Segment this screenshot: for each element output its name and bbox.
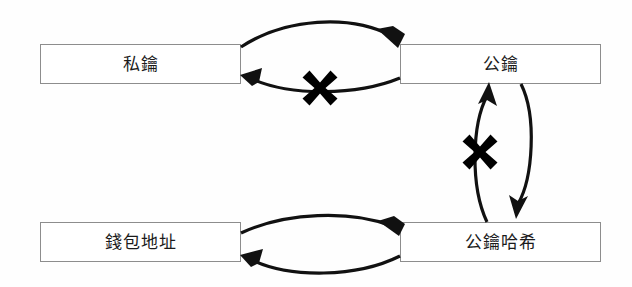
node-label-public-key: 公鑰: [483, 56, 519, 73]
edge-path-public-to-public-hash: [518, 84, 531, 204]
edge-private-to-public: [241, 22, 405, 48]
node-label-private-key: 私鑰: [123, 56, 159, 73]
arrow-head-public-hash-to-public: [478, 82, 497, 106]
cross-x-glyph-top: [303, 71, 338, 106]
edge-public-to-private: [240, 68, 400, 92]
node-wallet-address[interactable]: 錢包地址: [40, 222, 241, 262]
edge-wallet-to-hash: [241, 215, 405, 236]
arrow-head-hash-to-wallet: [240, 249, 263, 267]
cross-x-icon-middle: [458, 130, 502, 174]
edge-path-wallet-to-hash: [241, 215, 392, 233]
node-label-wallet-address: 錢包地址: [105, 234, 177, 251]
edge-path-hash-to-wallet: [252, 256, 400, 273]
node-public-key-hash[interactable]: 公鑰哈希: [400, 222, 601, 262]
cross-x-icon-top: [298, 66, 342, 110]
edge-public-to-public-hash: [509, 84, 531, 219]
node-private-key[interactable]: 私鑰: [40, 44, 241, 84]
arrow-head-public-to-private: [240, 68, 262, 86]
diagram-canvas: 私鑰 公鑰 錢包地址 公鑰哈希: [0, 0, 632, 287]
node-public-key[interactable]: 公鑰: [400, 44, 601, 84]
edge-path-public-hash-to-public: [475, 96, 487, 222]
edge-public-hash-to-public: [475, 82, 497, 222]
cross-x-glyph-middle: [463, 135, 498, 170]
node-label-public-key-hash: 公鑰哈希: [465, 234, 537, 251]
edge-path-public-to-private: [252, 78, 400, 92]
edge-hash-to-wallet: [240, 249, 400, 273]
arrow-head-public-to-public-hash: [509, 195, 528, 219]
edge-path-private-to-public: [241, 22, 392, 47]
